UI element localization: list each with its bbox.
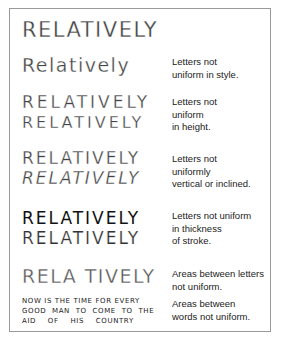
sentence-line: AID OF HIS COUNTRY xyxy=(22,316,154,326)
example-vertical: RELATIVELY xyxy=(22,150,140,167)
example-inclined: RELATIVELY xyxy=(22,170,140,187)
example-height-1: RELATIVELY xyxy=(22,94,150,111)
description-line: Areas between xyxy=(172,298,250,311)
description-vertical: Letters not uniformly vertical or inclin… xyxy=(172,153,251,191)
description-line: vertical or inclined. xyxy=(172,178,251,191)
description-line: uniformly xyxy=(172,166,251,179)
description-thickness: Letters not uniform in thickness of stro… xyxy=(172,210,251,248)
description-style: Letters not uniform in style. xyxy=(172,56,239,81)
description-line: Letters not uniform xyxy=(172,210,251,223)
example-thickness-2: RELATIVELY xyxy=(22,230,140,247)
example-style-nonuniform: Relatively xyxy=(22,56,130,75)
sentence-line: GOOD MAN TO COME TO THE xyxy=(22,306,154,316)
description-line: Areas between letters xyxy=(172,268,264,281)
example-thickness-1: RELATIVELY xyxy=(22,210,140,227)
description-line: Letters not xyxy=(172,96,217,109)
description-line: uniform xyxy=(172,109,217,122)
description-line: in height. xyxy=(172,121,217,134)
description-line: of stroke. xyxy=(172,235,251,248)
description-line: in thickness xyxy=(172,223,251,236)
description-height: Letters not uniform in height. xyxy=(172,96,217,134)
example-heading: RELATIVELY xyxy=(22,20,158,41)
description-line: uniform in style. xyxy=(172,69,239,82)
description-line: words not uniform. xyxy=(172,311,250,324)
example-height-2: RELATIVELY xyxy=(22,115,144,131)
example-letter-spacing: RELA TIVELY xyxy=(22,267,156,286)
example-word-spacing: NOW IS THE TIME FOR EVERY GOOD MAN TO CO… xyxy=(22,296,154,326)
description-letter-spacing: Areas between letters not uniform. xyxy=(172,268,264,293)
description-word-spacing: Areas between words not uniform. xyxy=(172,298,250,323)
description-line: not uniform. xyxy=(172,281,264,294)
description-line: Letters not xyxy=(172,153,251,166)
sentence-line: NOW IS THE TIME FOR EVERY xyxy=(22,296,154,306)
description-line: Letters not xyxy=(172,56,239,69)
